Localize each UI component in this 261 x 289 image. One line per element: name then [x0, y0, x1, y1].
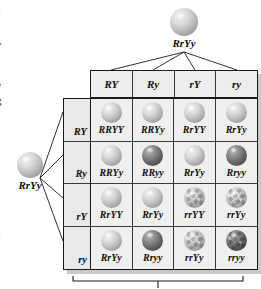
- row-header-cell: rY: [64, 184, 91, 227]
- smooth-yellow-sphere-icon: [101, 187, 122, 208]
- punnett-cell: RRyy: [133, 142, 175, 185]
- row-header-cell: Ry: [64, 142, 91, 185]
- punnett-cell: RRYy: [91, 142, 133, 185]
- genotype-label: RrYy: [101, 252, 122, 263]
- smooth-green-sphere-icon: [226, 145, 247, 166]
- punnett-cell: rryy: [216, 227, 258, 270]
- smooth-yellow-sphere-icon: [142, 102, 163, 123]
- wrinkled-yellow-sphere-icon: [226, 187, 247, 208]
- column-header-cell: rY: [175, 71, 217, 97]
- punnett-cell: rrYy: [174, 227, 216, 270]
- smooth-yellow-sphere-icon: [184, 102, 205, 123]
- punnett-cell: rrYy: [216, 184, 258, 227]
- smooth-yellow-sphere-icon: [101, 145, 122, 166]
- smooth-yellow-sphere-icon: [184, 145, 205, 166]
- punnett-cell: RrYY: [91, 184, 133, 227]
- margin-text-fragment: y: [0, 38, 2, 50]
- punnett-square-figure: s y e g s RrYy RrYy RY Ry: [0, 0, 261, 289]
- punnett-cell: rrYY: [174, 184, 216, 227]
- genotype-label: rryy: [228, 252, 245, 263]
- punnett-cell: Rryy: [133, 227, 175, 270]
- margin-text-fragment: g: [0, 94, 2, 106]
- punnett-grid: RY RRYY RRYy RrYY RrYy Ry RRYy RRyy: [63, 98, 258, 270]
- margin-text-fragment: e: [0, 78, 1, 90]
- genotype-label: RrYY: [183, 124, 206, 135]
- smooth-yellow-sphere-icon: [142, 187, 163, 208]
- smooth-yellow-sphere-icon: [101, 230, 122, 251]
- punnett-cell: RrYy: [216, 99, 258, 142]
- smooth-green-sphere-icon: [142, 145, 163, 166]
- genotype-label: rrYY: [184, 209, 204, 220]
- smooth-yellow-sphere-icon: [101, 102, 122, 123]
- smooth-yellow-sphere-icon: [226, 102, 247, 123]
- wrinkled-yellow-sphere-icon: [184, 230, 205, 251]
- row-header-cell: RY: [64, 99, 91, 142]
- parent-top-label: RrYy: [160, 37, 208, 49]
- punnett-cell: RRYY: [91, 99, 133, 142]
- punnett-cell: RrYy: [91, 227, 133, 270]
- column-header-cell: RY: [91, 71, 133, 97]
- smooth-green-sphere-icon: [142, 230, 163, 251]
- punnett-cell: RrYY: [174, 99, 216, 142]
- wrinkled-green-sphere-icon: [226, 230, 247, 251]
- genotype-label: rrYy: [185, 252, 203, 263]
- genotype-label: RRYY: [99, 124, 124, 135]
- punnett-cell: RrYy: [133, 184, 175, 227]
- smooth-yellow-sphere-icon: [17, 152, 43, 178]
- genotype-label: RRYy: [141, 124, 165, 135]
- genotype-label: Rryy: [227, 167, 246, 178]
- column-header-row: RY Ry rY ry: [90, 70, 258, 98]
- row-header-cell: ry: [64, 227, 91, 270]
- wrinkled-yellow-sphere-icon: [184, 187, 205, 208]
- column-header-cell: ry: [216, 71, 257, 97]
- punnett-cell: RRYy: [133, 99, 175, 142]
- genotype-label: RrYY: [100, 209, 123, 220]
- column-header-cell: Ry: [133, 71, 175, 97]
- bottom-bracket: [72, 276, 244, 288]
- genotype-label: rrYy: [227, 209, 245, 220]
- genotype-label: Rryy: [143, 252, 162, 263]
- punnett-cell: RrYy: [174, 142, 216, 185]
- genotype-label: RrYy: [226, 124, 247, 135]
- genotype-label: RrYy: [184, 167, 205, 178]
- parent-left: RrYy: [4, 152, 56, 191]
- parent-top: RrYy: [160, 8, 208, 49]
- genotype-label: RRyy: [142, 167, 164, 178]
- punnett-cell: Rryy: [216, 142, 258, 185]
- genotype-label: RrYy: [142, 209, 163, 220]
- parent-left-label: RrYy: [4, 179, 56, 191]
- smooth-yellow-sphere-icon: [170, 8, 198, 36]
- genotype-label: RRYy: [99, 167, 123, 178]
